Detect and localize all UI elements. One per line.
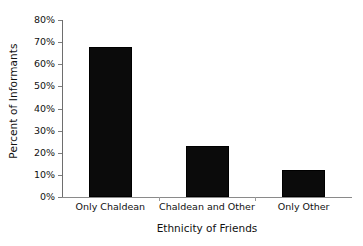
x-axis-line: [62, 197, 352, 198]
bar: [89, 47, 132, 197]
x-axis-tick-label: Only Other: [255, 201, 352, 212]
y-axis-tick-label: 80%: [23, 15, 55, 25]
x-axis-tick-labels: Only ChaldeanChaldean and OtherOnly Othe…: [62, 201, 352, 217]
y-axis-tick-label: 40%: [23, 104, 55, 114]
y-axis-tick-label: 0%: [23, 192, 55, 202]
bar: [186, 146, 229, 197]
y-axis-tick-label: 30%: [23, 126, 55, 136]
y-axis-tick-label: 50%: [23, 81, 55, 91]
x-axis-tick-label: Chaldean and Other: [159, 201, 256, 212]
x-axis-tick-mark: [159, 197, 160, 201]
bar-chart-figure: Percent of Informants 0%10%20%30%40%50%6…: [0, 0, 363, 246]
y-axis-tick-label: 70%: [23, 37, 55, 47]
y-axis-tick-labels: 0%10%20%30%40%50%60%70%80%: [23, 0, 55, 246]
bar: [282, 170, 325, 197]
y-axis-tick-label: 20%: [23, 148, 55, 158]
y-axis-tick-label: 60%: [23, 59, 55, 69]
x-axis-title: Ethnicity of Friends: [62, 222, 352, 234]
x-axis-tick-mark: [255, 197, 256, 201]
plot-area: [62, 20, 352, 197]
y-axis-title: Percent of Informants: [7, 21, 19, 181]
x-axis-tick-label: Only Chaldean: [62, 201, 159, 212]
y-axis-tick-label: 10%: [23, 170, 55, 180]
